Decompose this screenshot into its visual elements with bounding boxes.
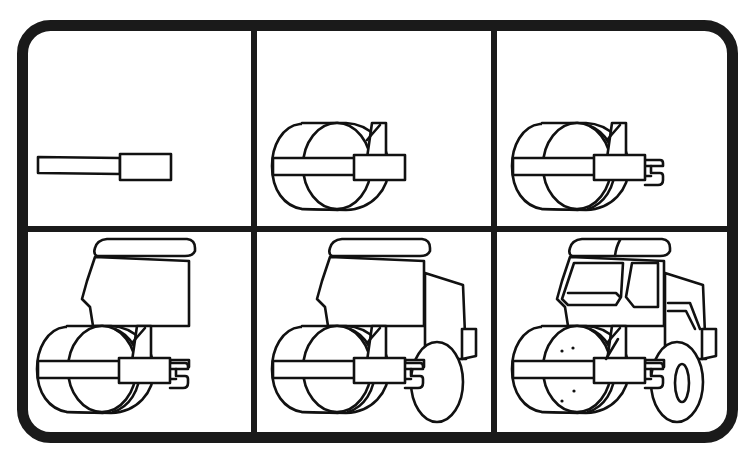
drawing-tutorial-sheet: How to draw a road roller — 6 steps [0,0,748,459]
